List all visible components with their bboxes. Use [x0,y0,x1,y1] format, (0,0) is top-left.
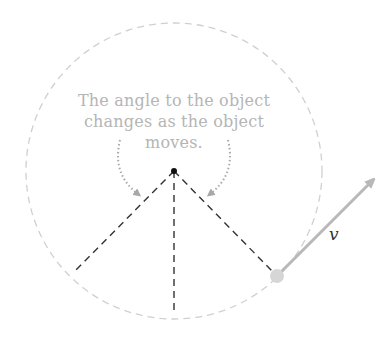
velocity-label: v [329,224,339,244]
caption-line-2: changes as the object [64,111,284,132]
radial-lines [75,171,272,312]
center-point [171,168,177,174]
caption: The angle to the object changes as the o… [64,90,284,153]
caption-line-1: The angle to the object [64,90,284,111]
caption-line-3: moves. [64,132,284,153]
velocity-arrow [280,181,372,273]
moving-object [270,269,284,283]
circular-motion-diagram [0,0,392,352]
